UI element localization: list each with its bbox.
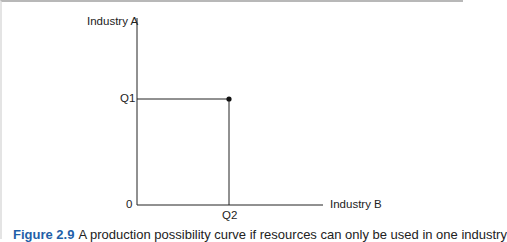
x-axis-label: Industry B [330, 199, 382, 211]
q1-label: Q1 [120, 93, 135, 105]
figure-number: Figure 2.9 [13, 227, 74, 242]
figure-caption: Figure 2.9A production possibility curve… [13, 228, 507, 241]
production-point [226, 96, 231, 101]
q2-label: Q2 [222, 210, 237, 222]
caption-text: A production possibility curve if resour… [78, 227, 507, 242]
y-axis-label: Industry A [87, 16, 138, 28]
origin-label: 0 [126, 199, 132, 211]
